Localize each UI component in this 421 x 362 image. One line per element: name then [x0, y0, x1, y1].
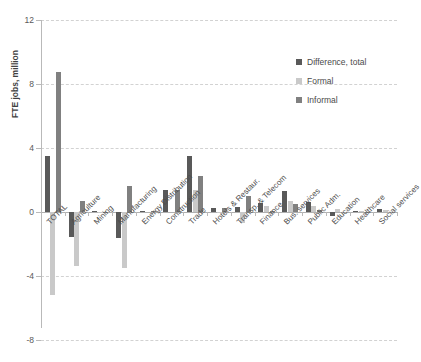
y-axis-tick	[36, 340, 41, 341]
legend-swatch-icon	[296, 59, 302, 65]
legend-swatch-icon	[296, 97, 302, 103]
x-axis-tick	[41, 212, 42, 216]
x-axis-tick	[112, 212, 113, 216]
y-axis-tick-label: 12	[25, 15, 34, 25]
y-axis-tick-label: -8	[26, 335, 34, 345]
gridline	[41, 340, 397, 341]
gridline	[41, 20, 397, 21]
x-axis-tick	[278, 212, 279, 216]
bar	[140, 211, 145, 212]
x-axis-tick	[373, 212, 374, 216]
x-axis-tick	[397, 212, 398, 216]
legend-label: Informal	[307, 95, 338, 105]
x-axis-tick	[207, 212, 208, 216]
legend-label: Difference, total	[307, 57, 366, 67]
legend-item: Formal	[296, 74, 404, 88]
bar	[377, 209, 382, 212]
legend-label: Formal	[307, 76, 333, 86]
gridline	[41, 276, 397, 277]
legend-swatch-icon	[296, 78, 302, 84]
legend-item: Difference, total	[296, 55, 404, 69]
bar	[45, 156, 50, 212]
x-axis-tick	[302, 212, 303, 216]
bar	[92, 211, 97, 212]
legend-item: Informal	[296, 93, 404, 107]
y-axis-tick-label: 8	[29, 79, 34, 89]
x-axis-category-label: Social services	[377, 182, 421, 226]
bar	[211, 208, 216, 212]
y-axis-line	[41, 20, 42, 328]
bar	[56, 72, 61, 212]
gridline	[41, 148, 397, 149]
y-axis-tick-label: 4	[29, 143, 34, 153]
bar	[353, 211, 358, 212]
y-axis-tick-label: -4	[26, 271, 34, 281]
chart-legend: Difference, totalFormalInformal	[296, 55, 404, 112]
y-axis-title: FTE jobs, million	[10, 50, 20, 118]
bar	[282, 191, 287, 212]
y-axis-tick-label: 0	[29, 207, 34, 217]
